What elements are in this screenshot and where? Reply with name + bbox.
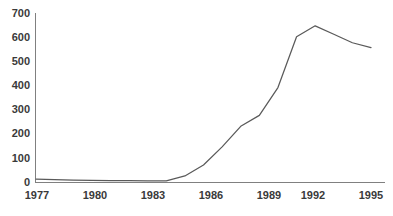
y-tick-label-100: 100: [12, 152, 30, 164]
y-axis-tick-labels: 700 600 500 400 300 200 100 0: [12, 7, 30, 188]
x-tick-label-1983: 1983: [141, 189, 165, 201]
x-tick-label-1977: 1977: [25, 189, 49, 201]
x-tick-label-1995: 1995: [359, 189, 383, 201]
x-tick-label-1992: 1992: [301, 189, 325, 201]
y-tick-label-600: 600: [12, 31, 30, 43]
x-axis-tick-labels: 1977 1980 1983 1986 1989 1992 1995: [25, 189, 383, 201]
line-chart-figure: 700 600 500 400 300 200 100 0 1977 1980 …: [0, 0, 393, 216]
x-tick-label-1986: 1986: [199, 189, 223, 201]
x-tick-label-1980: 1980: [83, 189, 107, 201]
y-tick-label-0: 0: [24, 176, 30, 188]
data-series-line: [36, 26, 371, 181]
y-tick-label-500: 500: [12, 55, 30, 67]
y-tick-label-300: 300: [12, 103, 30, 115]
chart-plot-area: 700 600 500 400 300 200 100 0 1977 1980 …: [0, 0, 393, 216]
y-tick-label-700: 700: [12, 7, 30, 19]
x-tick-label-1989: 1989: [257, 189, 281, 201]
y-tick-label-200: 200: [12, 127, 30, 139]
y-tick-label-400: 400: [12, 79, 30, 91]
